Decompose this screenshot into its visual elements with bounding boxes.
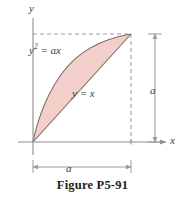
figure-container: y x y2 = ax y = x a a Figure P5-91 [0, 0, 185, 197]
x-axis-label: x [170, 135, 175, 146]
line-equation-label: y = x [72, 88, 95, 99]
vertical-dimension-label: a [150, 85, 156, 96]
horizontal-dimension-label: a [66, 163, 72, 174]
parabola-equation-label: y2 = ax [29, 43, 61, 56]
figure-caption: Figure P5-91 [0, 178, 185, 193]
y-axis-label: y [29, 3, 34, 14]
parabola-equation-rest: = ax [38, 44, 61, 56]
